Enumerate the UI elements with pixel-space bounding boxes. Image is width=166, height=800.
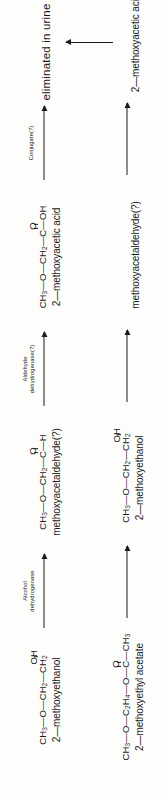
pathway-acid-chain: CH3—O—CH2—CHOH2 2—methoxyethanol Alcohol…	[0, 0, 83, 800]
node-methoxyacetic-acid-2: 2—methoxyacetic acid	[130, 0, 141, 92]
arrow-oxidation-2	[127, 103, 128, 175]
arrow-conjugate	[44, 106, 45, 180]
node-methoxyethanol-1: CH3—O—CH2—CHOH2 2—methoxyethanol	[38, 655, 62, 744]
formula-methoxyethanol-2: CH3—O—CH2—CHOH2	[121, 433, 132, 522]
diagram-canvas: CH3—O—CH2—CHOH2 2—methoxyethanol Alcohol…	[0, 0, 166, 800]
formula-methoxyethanol-1: CH3—O—CH2—CHOH2	[38, 655, 49, 744]
pathway-acetate-chain: CH3—O—C2H4O—O—C—CH3 2—methoxyethyl aceta…	[83, 0, 166, 800]
substituent-group: OH2	[38, 655, 49, 659]
node-methoxyacetic-acid: CH3—O—CH2O—C—OH 2—methoxyacetic acid	[38, 206, 62, 309]
node-eliminated-in-urine: eliminated in urine	[40, 3, 52, 100]
substituent-group: O—C—H	[38, 434, 48, 467]
diagram-rotated-group: CH3—O—CH2—CHOH2 2—methoxyethanol Alcohol…	[0, 0, 166, 800]
node-methoxyacetaldehyde: CH3—O—CH2O—C—H methoxyacetaldehyde(?)	[38, 428, 62, 535]
arrow-acid-to-urine	[66, 42, 113, 43]
label-methoxyethanol-2: 2—methoxyethanol	[134, 433, 145, 522]
arrow-alcohol-dehydrogenase	[44, 554, 45, 628]
substituent-group: O—C—OH	[38, 206, 48, 247]
label-methoxyethanol-1: 2—methoxyethanol	[51, 655, 62, 744]
formula-methoxyethyl-acetate: CH3—O—C2H4O—O—C—CH3	[121, 634, 132, 761]
arrow-esterase	[127, 546, 128, 618]
substituent-group: OH2	[121, 433, 132, 437]
label-methoxyacetic-acid: 2—methoxyacetic acid	[51, 206, 62, 309]
formula-methoxyacetic-acid: CH3—O—CH2O—C—OH	[38, 206, 49, 309]
arrow-aldehyde-dehydrogenase	[44, 332, 45, 406]
formula-methoxyacetaldehyde: CH3—O—CH2O—C—H	[38, 428, 49, 535]
substituent-group: O—O—C—CH3	[121, 634, 132, 695]
arrowhead-icon	[65, 40, 71, 46]
arrow-label-aldehyde-dehydrogenase: Aldehyde dehydrogenase(?)	[22, 345, 36, 394]
arrow-oxidation-1	[127, 330, 128, 402]
arrow-label-conjugate: Conjugate(?)	[28, 126, 35, 161]
arrow-label-alcohol-dehydrogenase: Alcohol dehydrogenase	[22, 570, 36, 611]
label-methoxyacetaldehyde: methoxyacetaldehyde(?)	[51, 428, 62, 535]
node-methoxyethanol-2: CH3—O—CH2—CHOH2 2—methoxyethanol	[121, 433, 145, 522]
label-methoxyethyl-acetate: 2—methoxyethyl acetate	[134, 634, 145, 761]
node-methoxyethyl-acetate: CH3—O—C2H4O—O—C—CH3 2—methoxyethyl aceta…	[121, 634, 145, 761]
node-methoxyacetaldehyde-2: methoxyacetaldehyde(?)	[130, 201, 141, 308]
